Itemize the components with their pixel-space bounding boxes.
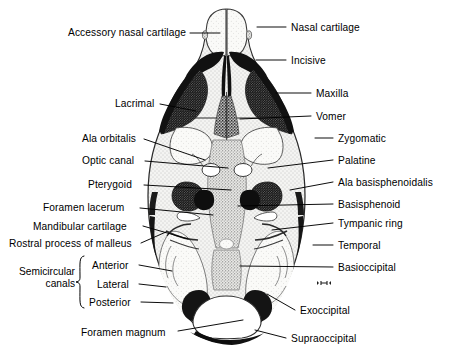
semicircular-canals-group-label: Semicircular canals	[18, 266, 75, 289]
label-posterior: Posterior	[89, 297, 131, 308]
label-supraoccipital: Supraoccipital	[291, 333, 356, 344]
label-nasal-cartilage: Nasal cartilage	[291, 22, 360, 33]
group-label-line1: Semicircular	[18, 266, 75, 278]
label-tympanic-ring: Tympanic ring	[338, 218, 403, 229]
label-lacrimal: Lacrimal	[115, 98, 154, 109]
label-exoccipital: Exoccipital	[300, 305, 350, 316]
label-basioccipital: Basioccipital	[338, 262, 396, 273]
nasal-cartilage-region	[202, 9, 251, 56]
skull-base-illustration	[0, 0, 453, 347]
label-pterygoid: Pterygoid	[88, 179, 132, 190]
label-lateral: Lateral	[97, 279, 129, 290]
optic-canal-left	[202, 164, 220, 177]
label-palatine: Palatine	[338, 155, 376, 166]
scale-mark	[317, 281, 331, 285]
label-temporal: Temporal	[338, 240, 381, 251]
group-label-line2: canals	[18, 278, 75, 290]
brace-path	[76, 256, 84, 308]
leader-lateral	[139, 284, 166, 287]
label-vomer: Vomer	[316, 111, 346, 122]
label-ala-orbitalis: Ala orbitalis	[82, 133, 136, 144]
label-ala-basisphenoidalis: Ala basisphenoidalis	[338, 177, 433, 188]
optic-canal-right	[234, 164, 252, 177]
label-incisive: Incisive	[291, 55, 326, 66]
semicircular-canals-brace	[76, 256, 84, 308]
label-mandibular-cartilage: Mandibular cartilage	[33, 221, 127, 232]
label-rostral-process-of-malleus: Rostral process of malleus	[9, 238, 132, 249]
label-basisphenoid: Basisphenoid	[338, 199, 400, 210]
basisphenoid-region	[208, 140, 247, 248]
accessory-nasal-cartilage-right	[246, 31, 251, 39]
label-accessory-nasal-cartilage: Accessory nasal cartilage	[68, 27, 186, 38]
accessory-nasal-cartilage-left	[202, 31, 207, 39]
label-optic-canal: Optic canal	[82, 155, 134, 166]
label-foramen-lacerum: Foramen lacerum	[43, 202, 124, 213]
label-anterior: Anterior	[92, 260, 128, 271]
label-foramen-magnum: Foramen magnum	[81, 327, 166, 338]
anatomical-figure: Accessory nasal cartilageLacrimalAla orb…	[0, 0, 453, 347]
label-maxilla: Maxilla	[316, 88, 348, 99]
leader-posterior	[141, 302, 173, 303]
leader-supraoccipital	[255, 330, 286, 338]
label-zymgomatic: Zygomatic	[338, 133, 386, 144]
